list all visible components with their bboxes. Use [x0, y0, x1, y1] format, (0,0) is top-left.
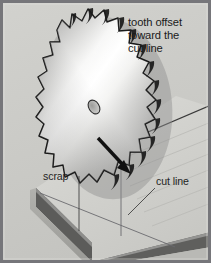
cut-line-label: cut line — [156, 175, 189, 187]
tooth-offset-line-3: cut line — [128, 42, 163, 54]
tooth-offset-line-1: tooth offset — [128, 16, 183, 28]
scrap-label: scrap — [43, 170, 69, 182]
saw-blade-figure: tooth offset toward the cut line scrap c… — [0, 0, 211, 263]
illustration-canvas: tooth offset toward the cut line scrap c… — [0, 0, 211, 263]
tooth-offset-line-2: toward the — [128, 29, 179, 41]
